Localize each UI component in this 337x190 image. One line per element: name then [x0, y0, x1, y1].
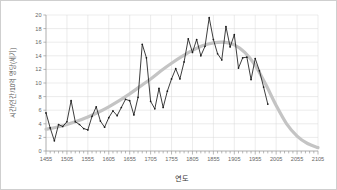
svg-text:4: 4	[38, 121, 41, 127]
svg-text:16: 16	[35, 39, 41, 45]
svg-text:6: 6	[38, 107, 41, 113]
svg-text:10: 10	[35, 80, 41, 86]
svg-text:18: 18	[35, 26, 41, 32]
x-axis-title: 연도	[175, 174, 189, 183]
svg-text:12: 12	[35, 66, 41, 72]
svg-text:1955: 1955	[249, 156, 261, 162]
svg-text:1655: 1655	[123, 156, 135, 162]
svg-text:2055: 2055	[291, 156, 303, 162]
svg-text:20: 20	[35, 12, 41, 18]
svg-text:1555: 1555	[82, 156, 94, 162]
svg-text:2105: 2105	[312, 156, 324, 162]
chart-container: 02468101214161820 1455150515551605165517…	[0, 0, 337, 190]
svg-text:2005: 2005	[270, 156, 282, 162]
svg-text:0: 0	[38, 148, 41, 154]
svg-text:14: 14	[35, 53, 41, 59]
svg-text:1805: 1805	[186, 156, 198, 162]
y-axis-title: 시간/인간/10억 명당(세기)	[8, 48, 17, 119]
svg-text:1455: 1455	[40, 156, 52, 162]
line-chart: 02468101214161820 1455150515551605165517…	[1, 1, 337, 190]
svg-text:1605: 1605	[103, 156, 115, 162]
svg-text:1705: 1705	[144, 156, 156, 162]
svg-text:1755: 1755	[165, 156, 177, 162]
svg-text:1855: 1855	[207, 156, 219, 162]
svg-text:1905: 1905	[228, 156, 240, 162]
svg-text:8: 8	[38, 94, 41, 100]
svg-text:1505: 1505	[61, 156, 73, 162]
svg-text:2: 2	[38, 134, 41, 140]
